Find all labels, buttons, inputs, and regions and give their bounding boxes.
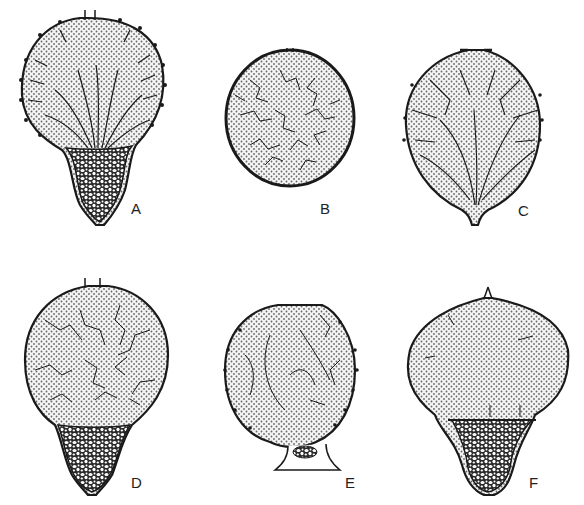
panel-a <box>19 10 167 225</box>
panel-b <box>226 48 354 186</box>
panel-label-b: B <box>320 200 330 217</box>
figure-six-panels: A B <box>0 0 584 505</box>
panel-label-d: D <box>131 474 142 491</box>
panel-label-c: C <box>518 202 529 219</box>
panel-label-e: E <box>345 474 355 491</box>
panel-c <box>402 50 544 225</box>
panel-e <box>223 305 359 470</box>
illustration-canvas: A B <box>0 0 584 505</box>
panel-label-f: F <box>529 474 538 491</box>
panel-d <box>25 278 168 495</box>
panel-label-a: A <box>131 200 141 217</box>
panel-f <box>408 287 568 495</box>
